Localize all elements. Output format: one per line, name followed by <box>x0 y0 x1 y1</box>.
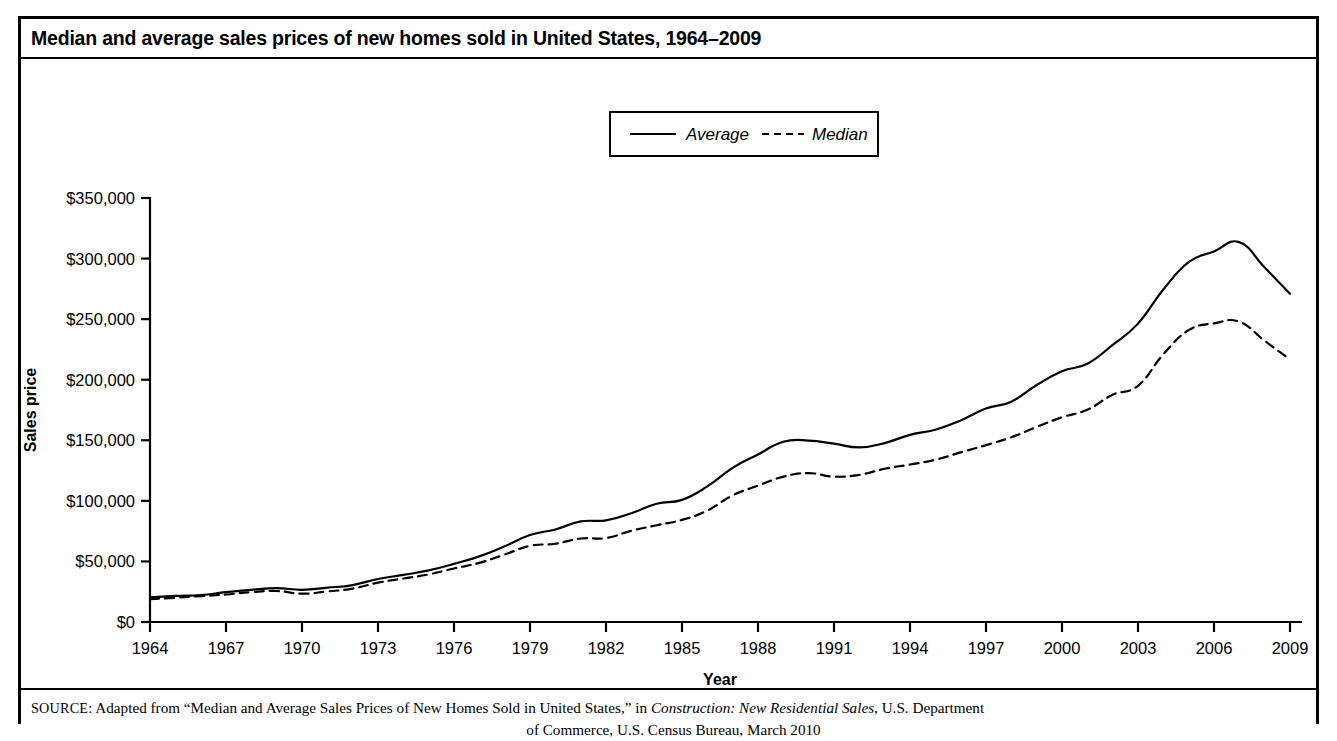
x-axis-tick-label: 2009 <box>1272 639 1309 657</box>
x-axis-tick-label: 1979 <box>512 639 549 657</box>
chart-legend: AverageMedian <box>610 112 878 156</box>
chart-axis-labels: $0$50,000$100,000$150,000$200,000$250,00… <box>22 189 1308 688</box>
x-axis-tick-label: 1976 <box>436 639 473 657</box>
source-note-line-2: of Commerce, U.S. Census Bureau, March 2… <box>31 719 1316 741</box>
x-axis-tick-label: 1988 <box>740 639 777 657</box>
series-line-median <box>150 320 1290 599</box>
series-line-average <box>150 241 1290 597</box>
source-note: SOURCE: Adapted from “Median and Average… <box>31 697 1316 741</box>
y-axis-tick-label: $50,000 <box>75 552 135 570</box>
x-axis-tick-label: 1964 <box>132 639 169 657</box>
chart-figure: Median and average sales prices of new h… <box>0 0 1337 741</box>
y-axis-tick-label: $350,000 <box>66 189 135 207</box>
x-axis-tick-label: 1982 <box>588 639 625 657</box>
x-axis-tick-label: 1994 <box>892 639 929 657</box>
y-axis-tick-label: $300,000 <box>66 250 135 268</box>
x-axis-tick-label: 1991 <box>816 639 853 657</box>
y-axis-tick-label: $150,000 <box>66 431 135 449</box>
y-axis-tick-label: $100,000 <box>66 492 135 510</box>
line-chart-plot: AverageMedian $0$50,000$100,000$150,000$… <box>0 0 1337 690</box>
x-axis-tick-label: 1985 <box>664 639 701 657</box>
x-axis-tick-label: 1997 <box>968 639 1005 657</box>
source-label: SOURCE: <box>31 700 92 716</box>
y-axis-tick-label: $200,000 <box>66 371 135 389</box>
x-axis-tick-label: 1967 <box>208 639 245 657</box>
x-axis-title: Year <box>703 671 737 688</box>
x-axis-tick-label: 1973 <box>360 639 397 657</box>
x-axis-tick-label: 2000 <box>1044 639 1081 657</box>
chart-series <box>150 241 1290 599</box>
x-axis-tick-label: 2003 <box>1120 639 1157 657</box>
chart-axes <box>141 197 1302 632</box>
source-publication-title: Construction: New Residential Sales <box>651 699 874 716</box>
y-axis-tick-label: $0 <box>117 613 135 631</box>
y-axis-tick-label: $250,000 <box>66 310 135 328</box>
x-axis-tick-label: 1970 <box>284 639 321 657</box>
legend-label-average[interactable]: Average <box>685 125 749 144</box>
y-axis-title: Sales price <box>22 368 39 453</box>
legend-label-median[interactable]: Median <box>812 125 868 144</box>
x-axis-tick-label: 2006 <box>1196 639 1233 657</box>
